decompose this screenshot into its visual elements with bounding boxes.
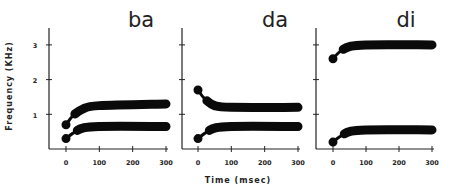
y-tick-2: 2 <box>33 77 38 85</box>
panel-title: da <box>262 8 288 32</box>
x-tick-label: 0 <box>64 159 69 167</box>
x-tick-label: 100 <box>93 159 107 167</box>
panel-ba: ba0100200300 <box>46 8 173 167</box>
formant-f2 <box>333 45 432 59</box>
panel-title: di <box>396 8 415 32</box>
x-tick-label: 100 <box>359 159 373 167</box>
formant-f2 <box>198 90 298 107</box>
x-axis-label: Time (msec) <box>205 176 271 185</box>
formant-f1 <box>333 130 432 142</box>
formant-f1 <box>198 126 298 138</box>
x-tick-label: 200 <box>126 159 140 167</box>
x-tick-label: 200 <box>392 159 406 167</box>
panel-di: di0100200300 <box>313 8 439 167</box>
y-axis-label: Frequency (KHz) <box>5 41 14 130</box>
x-tick-label: 0 <box>196 159 201 167</box>
panel-da: da0100200300 <box>179 8 305 167</box>
formant-f2 <box>66 104 166 125</box>
x-tick-label: 100 <box>225 159 239 167</box>
x-tick-label: 300 <box>425 159 439 167</box>
x-tick-label: 300 <box>291 159 305 167</box>
x-tick-label: 300 <box>159 159 173 167</box>
x-tick-label: 200 <box>258 159 272 167</box>
panel-title: ba <box>128 8 154 32</box>
y-tick-3: 3 <box>33 42 38 50</box>
y-tick-1: 1 <box>33 112 38 120</box>
x-tick-label: 0 <box>331 159 336 167</box>
formant-f1 <box>66 126 166 138</box>
formant-chart: Frequency (KHz) 3 2 1 ba0100200300da0100… <box>0 0 450 193</box>
